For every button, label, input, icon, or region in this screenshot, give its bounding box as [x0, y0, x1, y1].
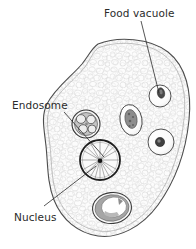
- label-nucleus: Nucleus: [14, 211, 57, 223]
- amoeba-diagram: Food vacuole Endosome Nucleus: [0, 0, 196, 249]
- label-endosome: Endosome: [12, 99, 68, 111]
- food-vacuole-right: [148, 129, 174, 155]
- endosome-vacuole: [72, 110, 100, 138]
- karyosome: [98, 159, 103, 164]
- figure-container: Food vacuole Endosome Nucleus: [0, 0, 196, 249]
- label-food-vacuole: Food vacuole: [104, 7, 175, 19]
- food-vacuole-upper-right: [149, 85, 171, 107]
